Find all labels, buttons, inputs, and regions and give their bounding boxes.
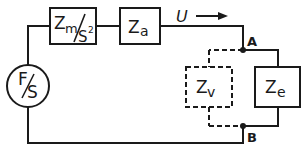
- circuit-diagram: F S Z m S 2 Z a Z v Z e A B U: [0, 0, 305, 151]
- node-b-label: B: [247, 130, 257, 145]
- node-a-label: A: [247, 34, 257, 49]
- zm-sup: 2: [88, 25, 94, 35]
- zv-sub: v: [207, 84, 215, 100]
- node-b-dot: [240, 123, 246, 129]
- zm-main: Z: [54, 13, 66, 33]
- za-sub: a: [140, 23, 149, 39]
- source-denominator: S: [27, 82, 38, 102]
- node-a-dot: [240, 47, 246, 53]
- zm-denom: S: [78, 28, 88, 46]
- za-main: Z: [128, 17, 140, 37]
- arrow-right-icon: [218, 12, 228, 20]
- signal-label: U: [176, 7, 188, 26]
- ze-sub: e: [277, 84, 286, 100]
- zm-sub: m: [65, 21, 78, 36]
- zv-main: Z: [196, 77, 208, 97]
- ze-main: Z: [265, 77, 277, 97]
